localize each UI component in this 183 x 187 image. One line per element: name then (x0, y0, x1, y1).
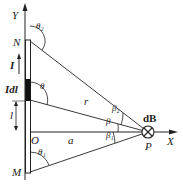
current-label: I (10, 60, 14, 71)
beta-label: β (106, 117, 110, 126)
theta-label: θ (40, 82, 44, 91)
beta2-label: β₂ (112, 104, 120, 113)
field-db-label: dB (143, 113, 156, 124)
r-distance-label: r (84, 96, 88, 107)
l-length-label: l (10, 110, 13, 121)
point-n-label: N (13, 37, 20, 48)
point-m-label: M (12, 167, 21, 178)
x-axis-label: X (167, 136, 174, 147)
theta1-label: θ₁ (38, 148, 46, 157)
a-distance-label: a (68, 135, 74, 146)
diagram-lines (0, 0, 183, 187)
point-p-label: P (145, 141, 152, 152)
beta1-label: β₁ (106, 131, 114, 140)
theta2-label: θ₂ (36, 22, 44, 31)
origin-label: O (31, 135, 39, 146)
y-axis-label: Y (12, 10, 18, 21)
current-element-label: Idl (5, 84, 18, 95)
biot-savart-diagram: Y N θ₂ I Idl θ l O a r θ₁ M β₂ β β₁ dB P… (0, 0, 183, 187)
